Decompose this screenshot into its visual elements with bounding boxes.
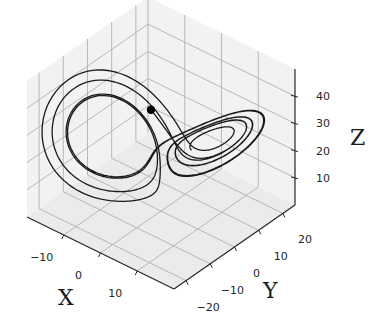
x-tick: [135, 271, 137, 275]
z-tick-label: 20: [316, 145, 330, 158]
x-axis-label: X: [58, 285, 74, 310]
y-tick-label: −20: [196, 301, 219, 314]
z-tick-label: 10: [316, 172, 330, 185]
y-tick: [259, 230, 261, 234]
y-tick: [283, 213, 285, 217]
y-tick-label: −10: [221, 284, 244, 297]
y-tick-label: 20: [298, 233, 312, 246]
x-tick-label: −10: [30, 251, 53, 264]
y-tick: [235, 247, 237, 251]
z-tick-label: 40: [316, 90, 330, 103]
y-tick-label: 0: [253, 267, 260, 280]
lorenz-3d-plot: −10010−20−100102010203040 X Y Z: [0, 0, 386, 327]
z-tick-label: 30: [316, 117, 330, 130]
y-tick-label: 10: [274, 250, 288, 263]
y-tick: [210, 264, 212, 268]
current-state-marker: [147, 106, 155, 114]
x-tick-label: 10: [108, 287, 122, 300]
z-axis-label: Z: [350, 125, 365, 150]
y-tick: [186, 281, 188, 285]
x-tick: [62, 235, 64, 239]
x-tick-label: 0: [75, 269, 82, 282]
x-tick: [99, 253, 101, 257]
y-axis-label: Y: [262, 278, 278, 303]
